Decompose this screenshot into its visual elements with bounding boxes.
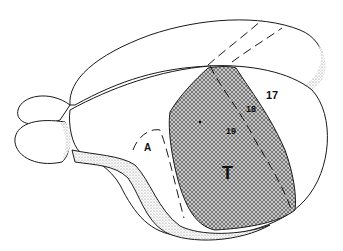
marker-dot [199, 121, 201, 123]
label-18: 18 [246, 104, 256, 114]
label-a: A [144, 142, 151, 153]
label-17: 17 [266, 89, 278, 101]
brain-diagram: 17 18 19 T A [0, 0, 343, 251]
olfactory-bulb-lower [15, 121, 69, 164]
label-t: T [222, 163, 233, 183]
label-19: 19 [226, 126, 236, 136]
